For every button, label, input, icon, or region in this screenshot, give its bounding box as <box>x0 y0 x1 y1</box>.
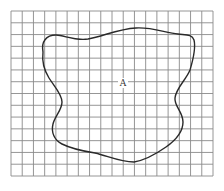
grid-figure: A <box>0 0 224 191</box>
grid-diagram: A <box>0 0 224 191</box>
region-label: A <box>119 78 127 88</box>
